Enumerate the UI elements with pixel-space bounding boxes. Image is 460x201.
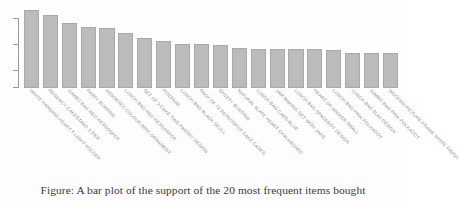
figure-caption: Figure: A bar plot of the support of the…: [0, 184, 406, 196]
bar: [383, 53, 398, 88]
bar: [364, 53, 379, 88]
bar: [137, 38, 152, 88]
bar: [81, 27, 96, 88]
bar: [270, 49, 285, 88]
bar: [307, 49, 322, 88]
bar: [288, 49, 303, 88]
bar: [24, 10, 39, 88]
bar: [194, 44, 209, 88]
bar: [43, 15, 58, 88]
bar: [118, 33, 133, 88]
bar: [251, 49, 266, 88]
bar: [326, 50, 341, 88]
bar: [156, 41, 171, 88]
category-label: WHITE HANGING HEART T-LIGHT HOLDER: [29, 88, 102, 161]
category-labels-layer: WHITE HANGING HEART T-LIGHT HOLDERREGENC…: [0, 88, 406, 183]
bars-layer: [0, 0, 406, 92]
bar: [99, 28, 114, 88]
bar: [213, 45, 228, 88]
bar-chart-plot-area: [0, 0, 406, 92]
bar: [232, 48, 247, 88]
bar: [62, 23, 77, 88]
bar: [175, 44, 190, 88]
category-label: WOODEN PICTURE FRAME WHITE FINISH: [388, 88, 460, 160]
bar: [345, 53, 360, 88]
category-label: POSTAGE: [161, 88, 181, 108]
